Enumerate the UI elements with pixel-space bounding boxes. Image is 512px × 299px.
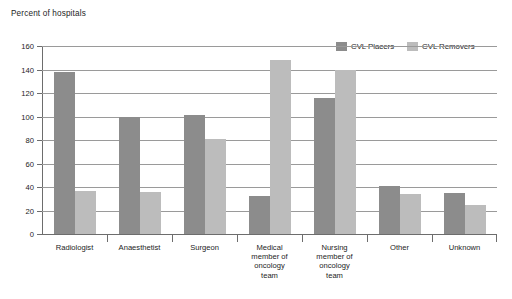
bar[interactable]	[270, 60, 291, 234]
y-axis-label-120: 120	[8, 89, 34, 98]
chart-figure: Percent of hospitals CVL Placers CVL Rem…	[0, 0, 512, 299]
category-separator	[172, 235, 173, 242]
category-label: Radiologist	[42, 243, 107, 252]
bar[interactable]	[140, 192, 161, 234]
bar[interactable]	[444, 193, 465, 234]
category-separator	[302, 235, 303, 242]
y-axis-label-80: 80	[8, 136, 34, 145]
y-axis-label-140: 140	[8, 65, 34, 74]
bar-group	[107, 46, 172, 234]
category-label: Anaesthetist	[107, 243, 172, 252]
bar[interactable]	[119, 117, 140, 235]
category-label: Other	[367, 243, 432, 252]
bar[interactable]	[184, 115, 205, 234]
bar[interactable]	[335, 70, 356, 235]
bar-group	[367, 46, 432, 234]
category-label: Medicalmember ofoncologyteam	[237, 243, 302, 280]
category-label: Nursingmember ofoncologyteam	[302, 243, 367, 280]
bar[interactable]	[75, 191, 96, 234]
bar[interactable]	[54, 72, 75, 234]
bar-group	[172, 46, 237, 234]
bar-layer	[42, 46, 497, 234]
y-axis-label-160: 160	[8, 42, 34, 51]
category-axis: RadiologistAnaesthetistSurgeonMedicalmem…	[42, 235, 497, 299]
bar[interactable]	[205, 139, 226, 234]
y-axis-labels: 020406080100120140160	[0, 0, 34, 299]
category-separator	[237, 235, 238, 242]
bar-group	[302, 46, 367, 234]
y-axis-label-0: 0	[8, 230, 34, 239]
bar[interactable]	[249, 196, 270, 234]
y-axis-label-100: 100	[8, 112, 34, 121]
bar-group	[42, 46, 107, 234]
category-separator	[496, 235, 497, 242]
y-axis-label-60: 60	[8, 159, 34, 168]
bar[interactable]	[465, 205, 486, 234]
plot-area	[42, 46, 497, 234]
category-label: Surgeon	[172, 243, 237, 252]
bar[interactable]	[314, 98, 335, 234]
category-separator	[432, 235, 433, 242]
y-axis-label-40: 40	[8, 183, 34, 192]
category-label: Unknown	[432, 243, 497, 252]
bar-group	[237, 46, 302, 234]
bar-group	[432, 46, 497, 234]
y-axis-label-20: 20	[8, 206, 34, 215]
bar[interactable]	[400, 194, 421, 234]
bar[interactable]	[379, 186, 400, 234]
category-separator	[107, 235, 108, 242]
category-separator	[367, 235, 368, 242]
